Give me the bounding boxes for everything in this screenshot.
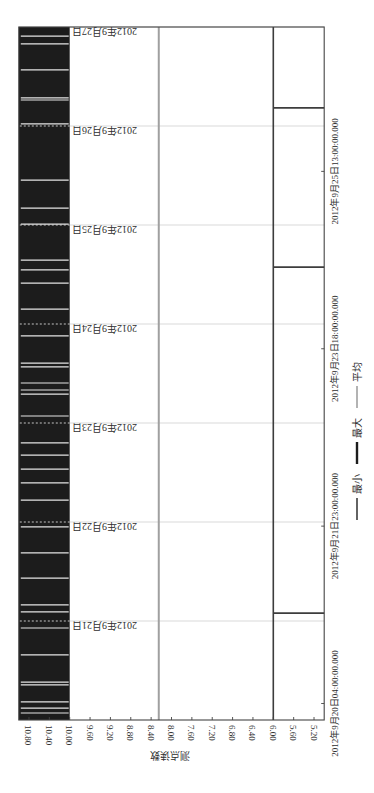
legend-item: 最大 [351, 418, 363, 464]
legend: 最小最大平均 [351, 362, 363, 520]
time-tick-label: 2012年9月20日04:00:00.000 [329, 650, 340, 757]
legend-label: 最小 [352, 474, 363, 494]
figure-page: 10.8010.4010.009.609.208.808.408.007.607… [0, 0, 374, 793]
value-tick-label: 9.20 [105, 725, 115, 741]
grid-date-label: 2012年9月22日 [72, 521, 137, 533]
value-tick-label: 7.20 [207, 725, 217, 741]
legend-item: 平均 [352, 362, 363, 408]
value-tick-label: 8.00 [166, 725, 176, 741]
value-tick-label: 7.60 [186, 725, 196, 741]
chart-labels: 10.8010.4010.009.609.208.808.408.007.607… [23, 26, 340, 762]
value-tick-label: 5.60 [288, 725, 298, 741]
max-series-band [19, 27, 70, 720]
value-tick-label: 9.60 [85, 725, 95, 741]
legend-item: 最小 [352, 474, 363, 520]
value-tick-label: 6.40 [247, 725, 257, 741]
grid-date-label: 2012年9月27日 [72, 26, 137, 38]
value-axis-title: 测点读数 [150, 750, 190, 762]
legend-label: 最大 [351, 418, 363, 438]
value-tick-label: 6.80 [227, 725, 237, 741]
value-tick-label: 5.20 [309, 725, 319, 741]
value-tick-label: 10.00 [64, 725, 74, 746]
time-tick-label: 2012年9月25日13:00:00.000 [329, 118, 340, 225]
min-avg-series [159, 27, 324, 720]
grid-date-label: 2012年9月23日 [72, 422, 137, 434]
value-tick-label: 8.40 [146, 725, 156, 741]
grid-date-label: 2012年9月21日 [72, 620, 137, 632]
time-tick-label: 2012年9月23日18:00:00.000 [329, 295, 340, 402]
max-series [19, 27, 70, 720]
legend-label: 平均 [352, 362, 363, 382]
legend-items: 最小最大平均 [351, 362, 363, 520]
grid-date-label: 2012年9月25日 [72, 224, 137, 236]
value-tick-label: 8.80 [125, 725, 135, 741]
grid-date-label: 2012年9月24日 [72, 323, 137, 335]
rotated-line-chart: 10.8010.4010.009.609.208.808.408.007.607… [0, 0, 374, 793]
value-tick-label: 6.00 [268, 725, 278, 741]
value-tick-label: 10.80 [23, 725, 33, 746]
time-tick-label: 2012年9月21日23:00:00.000 [329, 473, 340, 580]
grid-date-label: 2012年9月26日 [72, 125, 137, 137]
value-tick-label: 10.40 [44, 725, 54, 746]
